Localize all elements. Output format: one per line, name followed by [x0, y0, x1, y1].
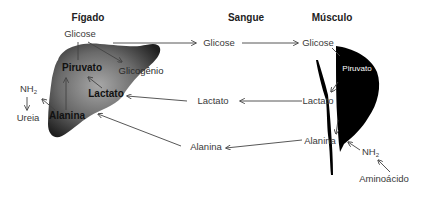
arrow-blood-lactate-to-liver [127, 96, 187, 101]
amino-acid-label: Aminoácido [359, 173, 409, 184]
urea-label: Ureia [17, 112, 40, 123]
liver-alanine-label: Alanina [49, 110, 86, 121]
blood-alanine-label: Alanina [190, 141, 222, 152]
header-liver: Fígado [72, 12, 105, 23]
liver-pyruvate-label: Piruvato [62, 62, 102, 73]
arrow-amino-acid-to-nh2 [378, 160, 390, 172]
blood-lactate-label: Lactato [197, 95, 228, 106]
header-muscle: Músculo [312, 12, 353, 23]
muscle-fiber-thin [316, 60, 333, 175]
muscle-shape [336, 46, 379, 152]
arrow-muscle-alanine-to-blood [226, 140, 302, 148]
blood-glucose-label: Glicose [203, 37, 235, 48]
muscle-alanine-label: Alanina [304, 135, 336, 146]
arrow-pyruvate-to-alanine [336, 120, 338, 134]
liver-glucose-label: Glicose [64, 28, 96, 39]
arrow-nh2-to-alanine [348, 142, 360, 150]
liver-nh2-label: NH2 [20, 83, 38, 95]
muscle-pyruvate-label: Piruvato [342, 64, 372, 73]
liver-lactate-label: Lactato [88, 88, 124, 99]
muscle-nh2-label: NH2 [362, 146, 380, 158]
muscle-lactate-label: Lactato [302, 95, 333, 106]
muscle-glucose-label: Glicose [302, 37, 334, 48]
cori-alanine-cycle-diagram: Fígado Sangue Músculo Glicose Piruvato G… [0, 0, 423, 197]
liver-glycogen-label: Glicogênio [119, 65, 164, 76]
header-blood: Sangue [228, 12, 265, 23]
arrow-blood-alanine-to-liver [98, 114, 181, 146]
